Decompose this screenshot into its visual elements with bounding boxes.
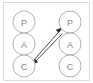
node-left-c[interactable]: C [13, 55, 35, 77]
node-label-right-c: C [67, 62, 74, 72]
left-agent-column: P A C [13, 11, 35, 77]
connector-line-down [35, 34, 63, 63]
connector-group [32, 28, 63, 65]
node-label-right-p: P [67, 18, 73, 28]
node-right-c[interactable]: C [59, 55, 81, 77]
node-label-left-c: C [21, 62, 28, 72]
node-label-left-a: A [21, 40, 27, 50]
node-label-left-p: P [21, 18, 27, 28]
right-agent-column: P A C [59, 11, 81, 77]
connector-line-up [33, 30, 61, 61]
node-left-p[interactable]: P [13, 11, 35, 33]
pac-diagram: P A C P A C [0, 0, 93, 83]
node-right-p[interactable]: P [59, 11, 81, 33]
diagram-frame: P A C P A C [0, 0, 93, 83]
node-left-a[interactable]: A [13, 33, 35, 55]
node-right-a[interactable]: A [59, 33, 81, 55]
node-label-right-a: A [67, 40, 73, 50]
